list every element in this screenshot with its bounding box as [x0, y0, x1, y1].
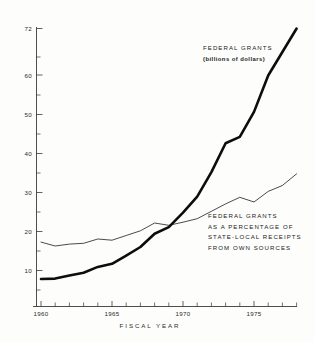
- annotation-upper-line-1: FEDERAL GRANTS: [203, 44, 273, 51]
- y-axis-ticks: 72 60 50 40 30 20 10: [24, 25, 42, 290]
- line-chart-svg: 72 60 50 40 30 20 10: [0, 0, 315, 343]
- annotation-lower-line-2: AS A PERCENTAGE OF: [208, 223, 294, 230]
- y-tick-label-40: 40: [24, 150, 32, 157]
- annotation-upper-subline: (billions of dollars): [203, 56, 265, 62]
- annotation-lower-line-1: FEDERAL GRANTS: [208, 212, 278, 219]
- x-tick-label-1975: 1975: [246, 310, 261, 317]
- x-tick-label-1965: 1965: [104, 310, 119, 317]
- y-tick-label-10: 10: [24, 267, 32, 274]
- y-tick-label-20: 20: [24, 228, 32, 235]
- series-line-federal-grants: [41, 29, 297, 280]
- annotation-lower-line-3: STATE-LOCAL RECEIPTS: [208, 233, 302, 240]
- chart-container: 72 60 50 40 30 20 10: [0, 0, 315, 343]
- y-tick-label-72: 72: [24, 25, 32, 32]
- y-tick-label-50: 50: [24, 111, 32, 118]
- x-axis-ticks: [41, 301, 297, 307]
- x-tick-label-1970: 1970: [175, 310, 190, 317]
- x-axis-tick-labels: 1960 1965 1970 1975: [33, 310, 261, 317]
- annotation-federal-grants: FEDERAL GRANTS (billions of dollars): [203, 44, 273, 62]
- x-tick-label-1960: 1960: [33, 310, 48, 317]
- y-tick-label-30: 30: [24, 189, 32, 196]
- y-tick-label-60: 60: [24, 72, 32, 79]
- annotation-lower-line-4: FROM OWN SOURCES: [208, 244, 291, 251]
- x-axis-title: FISCAL YEAR: [120, 322, 181, 329]
- annotation-percentage-series: FEDERAL GRANTS AS A PERCENTAGE OF STATE-…: [208, 212, 302, 251]
